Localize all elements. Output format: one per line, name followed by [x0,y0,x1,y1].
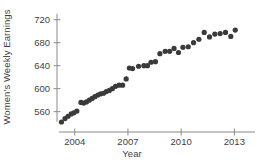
data-point [157,51,162,56]
data-point [212,31,217,36]
y-tick-label: 720 [34,14,50,25]
data-point [228,34,233,39]
data-point [74,108,79,113]
data-point [176,50,181,55]
y-tick-label: 680 [34,37,50,48]
data-point [180,45,185,50]
data-point [171,46,176,51]
data-point [124,76,129,81]
data-point [207,34,212,39]
x-tick-label: 2004 [64,136,85,147]
x-axis-title: Year [0,148,264,159]
data-point [120,83,125,88]
y-tick-label: 560 [34,106,50,117]
data-point [196,37,201,42]
chart-plot-area: 560600640680720 2004200720102013 [0,0,264,168]
data-point [167,49,172,54]
data-point [191,40,196,45]
data-point [186,44,191,49]
data-point [130,66,135,71]
y-tick-label: 600 [34,83,50,94]
y-tick-label: 640 [34,60,50,71]
data-point [163,49,168,54]
data-point [218,31,223,36]
data-point [148,60,153,65]
x-axis: 2004200720102013 [59,129,255,148]
scatter-chart: 560600640680720 2004200720102013 Women's… [0,0,264,168]
y-axis: 560600640680720 [34,14,60,122]
y-axis-title: Women's Weekly Earnings [1,7,15,127]
x-tick-label: 2013 [224,136,245,147]
data-point [202,30,207,35]
data-point [136,64,141,69]
x-tick-label: 2010 [171,136,192,147]
x-tick-label: 2007 [117,136,138,147]
data-points [59,27,238,124]
data-point [233,27,238,32]
data-point [223,30,228,35]
data-point [153,59,158,64]
